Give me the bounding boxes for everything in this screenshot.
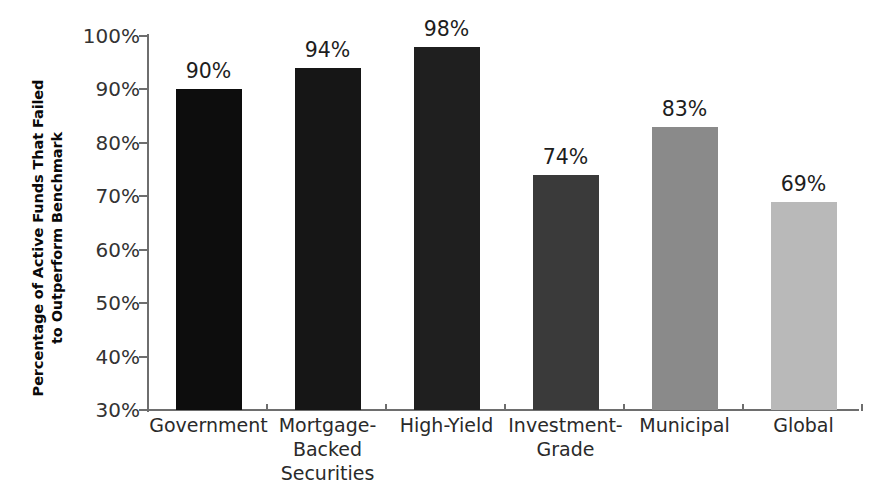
y-axis-tick-labels: 100%90%80%70%60%50%40%30%	[72, 0, 140, 481]
bar-value-label: 69%	[744, 174, 863, 195]
x-axis-category-label-line: Municipal	[625, 414, 744, 438]
x-axis-category-labels: GovernmentMortgage-BackedSecuritiesHigh-…	[149, 414, 861, 481]
bar[interactable]	[652, 127, 718, 410]
y-axis-tick-label: 60%	[74, 240, 140, 260]
bar[interactable]	[414, 47, 480, 410]
bar-group: 74%	[506, 0, 625, 410]
y-axis-tick-label: 40%	[74, 347, 140, 367]
plot-area: 90%94%98%74%83%69%	[149, 0, 861, 410]
y-axis-tick-mark	[139, 249, 148, 251]
x-axis-category-label-line: Global	[744, 414, 863, 438]
bar[interactable]	[176, 89, 242, 410]
bar-chart: Percentage of Active Funds That Failed t…	[0, 0, 888, 481]
bar[interactable]	[771, 202, 837, 410]
x-axis-category-label-line: Backed	[268, 438, 387, 462]
bar-group: 98%	[387, 0, 506, 410]
y-axis-tick-mark	[139, 356, 148, 358]
y-axis-tick-label: 70%	[74, 186, 140, 206]
x-axis-category-label-line: Government	[149, 414, 268, 438]
y-axis-tick-label: 90%	[74, 79, 140, 99]
x-axis-category-label: Mortgage-BackedSecurities	[268, 414, 387, 481]
y-axis-tick-label: 100%	[74, 26, 140, 46]
x-axis-category-label-line: High-Yield	[387, 414, 506, 438]
bar-value-label: 94%	[268, 40, 387, 61]
y-axis-title-line-1: Percentage of Active Funds That Failed	[29, 80, 48, 397]
y-axis-tick-label: 80%	[74, 133, 140, 153]
y-axis-tick-mark	[139, 142, 148, 144]
bar-group: 83%	[625, 0, 744, 410]
bar-group: 90%	[149, 0, 268, 410]
x-axis-category-label-line: Mortgage-	[268, 414, 387, 438]
bar-value-label: 74%	[506, 147, 625, 168]
x-axis-category-label-line: Grade	[506, 438, 625, 462]
bar[interactable]	[295, 68, 361, 410]
y-axis-tick-label: 30%	[74, 400, 140, 420]
x-axis-category-label: Government	[149, 414, 268, 438]
bar-value-label: 98%	[387, 19, 506, 40]
y-axis-tick-mark	[139, 35, 148, 37]
bar-group: 94%	[268, 0, 387, 410]
bar-value-label: 90%	[149, 61, 268, 82]
x-axis-category-label-line: Securities	[268, 462, 387, 481]
x-axis-category-label-line: Investment-	[506, 414, 625, 438]
x-axis-category-label: High-Yield	[387, 414, 506, 438]
y-axis-tick-mark	[139, 88, 148, 90]
x-axis-category-label: Municipal	[625, 414, 744, 438]
y-axis-title-line-2: to Outperform Benchmark	[48, 132, 67, 344]
x-axis-category-label: Global	[744, 414, 863, 438]
bar-group: 69%	[744, 0, 863, 410]
x-axis-category-label: Investment-Grade	[506, 414, 625, 462]
y-axis-title: Percentage of Active Funds That Failed t…	[26, 38, 70, 438]
y-axis-tick-mark	[139, 302, 148, 304]
y-axis-tick-mark	[139, 195, 148, 197]
y-axis-tick-label: 50%	[74, 293, 140, 313]
bar-value-label: 83%	[625, 99, 744, 120]
bar[interactable]	[533, 175, 599, 410]
